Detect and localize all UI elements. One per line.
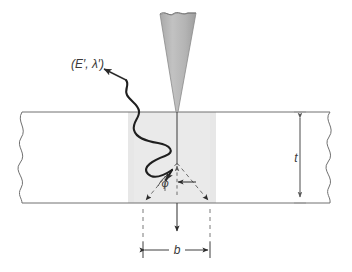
- incident-beam-cone: [160, 13, 196, 112]
- scattered-ray-label: (E′, λ′): [71, 57, 104, 71]
- scattered-ray-arrow: [104, 69, 126, 80]
- scattering-diagram: φ (E′, λ′) t b: [0, 0, 352, 272]
- width-label: b: [174, 243, 181, 257]
- sample-slab: [22, 112, 330, 203]
